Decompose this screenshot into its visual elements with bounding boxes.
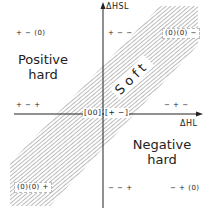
point-center-right: [+ −] [104,108,129,118]
point-bottom-center: − − + [108,185,133,192]
point-top-right: (0)(0) − [162,28,200,39]
x-axis-label: ΔHL [180,120,197,128]
point-mid-right: − + − [164,102,189,109]
point-mid-left: + − + [16,102,41,109]
point-bottom-left: (0)(0) + [14,182,52,193]
x-axis-arrow-icon [196,112,203,117]
point-top-left: + − (0) [16,30,46,37]
point-bottom-right: − + (0) [170,185,200,192]
negative-hard-label: Negative hard [130,137,194,167]
point-top-center: + − − [108,30,133,37]
y-axis-label: ΔHSL [106,3,129,11]
positive-hard-label: Positive hard [16,52,70,82]
hsab-diagram: ΔHSL ΔHL Positive hard Negative hard Sof… [0,0,207,212]
point-center-left: [00] [83,108,102,118]
y-axis-arrow-icon [101,2,106,9]
